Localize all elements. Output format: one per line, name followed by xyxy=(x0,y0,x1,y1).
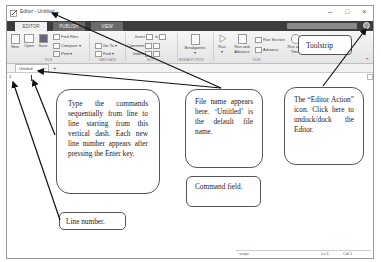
function-icon xyxy=(159,34,166,40)
run-label: Run xyxy=(218,44,225,49)
column-indicator: Col 1 xyxy=(343,251,352,256)
tab-publish[interactable]: PUBLISH xyxy=(53,22,85,31)
comment-icon xyxy=(145,43,152,49)
find-files-icon xyxy=(53,34,60,40)
file-type-indicator: script xyxy=(239,251,249,256)
go-to-button[interactable]: Go To ▾ xyxy=(95,43,117,49)
breakpoints-icon xyxy=(191,34,200,45)
run-and-advance-label: Run and Advance xyxy=(234,44,250,54)
indent-icon xyxy=(145,51,152,57)
callout-line-number-text: Line number. xyxy=(66,216,119,227)
run-section-button[interactable]: Run Section xyxy=(255,37,285,43)
callout-command-field: Command field. xyxy=(186,176,261,207)
close-button[interactable]: × xyxy=(362,7,367,16)
run-and-advance-button[interactable]: Run and Advance xyxy=(231,34,253,54)
minimize-button[interactable]: – xyxy=(328,7,332,16)
advance-button[interactable]: Advance xyxy=(255,47,279,53)
save-icon xyxy=(39,34,48,43)
ribbon-tab-bar: EDITOR PUBLISH VIEW xyxy=(7,21,373,31)
callout-editor-action-text: The “Editor Action” icon. Click here to … xyxy=(294,95,354,135)
line-number: 1 xyxy=(9,74,11,79)
breakpoints-group-label: BREAKPOINTS xyxy=(179,58,204,62)
open-label: Open xyxy=(24,43,34,48)
callout-file-name: File name appears here. ‘Untitled’ is th… xyxy=(185,89,263,168)
run-and-advance-icon xyxy=(238,34,247,44)
save-label: Save xyxy=(38,43,47,48)
new-file-icon xyxy=(11,34,20,44)
separator xyxy=(213,33,214,61)
add-tab-button[interactable]: + xyxy=(53,64,57,72)
callout-editor-action: The “Editor Action” icon. Click here to … xyxy=(284,87,364,165)
line-indicator: Ln 1 xyxy=(321,251,329,256)
file-group-label: FILE xyxy=(45,58,52,62)
status-bar: script Ln 1 Col 1 xyxy=(7,250,373,258)
compare-icon xyxy=(53,43,60,49)
outdent-icon xyxy=(153,51,160,57)
separator xyxy=(89,33,90,61)
go-to-icon xyxy=(95,43,102,49)
new-button[interactable]: New xyxy=(9,34,21,49)
run-icon xyxy=(218,34,227,43)
comment-button[interactable]: Comment xyxy=(127,43,161,49)
tab-editor[interactable]: EDITOR xyxy=(15,22,47,31)
collapse-toolstrip-icon[interactable]: ⌅ xyxy=(365,55,369,61)
insert-button[interactable]: Insert fx xyxy=(135,34,167,40)
insert-icon xyxy=(146,34,153,40)
callout-line-number: Line number. xyxy=(59,212,126,230)
callout-command-field-text: Command field. xyxy=(195,182,252,192)
editor-action-icon[interactable] xyxy=(363,22,370,29)
quick-access-toolbar[interactable] xyxy=(287,23,357,29)
callout-toolstrip-text: Toolstrip xyxy=(306,40,344,51)
compare-button[interactable]: Compare ▾ xyxy=(53,43,81,49)
separator xyxy=(125,33,126,61)
navigate-group-label: NAVIGATE xyxy=(99,58,116,62)
save-button[interactable]: Save xyxy=(37,34,49,48)
separator xyxy=(177,33,178,61)
callout-type-commands-text: Type the commands sequentially from line… xyxy=(68,99,148,159)
print-icon xyxy=(53,51,60,57)
folder-icon xyxy=(24,34,34,43)
tab-view[interactable]: VIEW xyxy=(91,22,123,31)
run-group-label: RUN xyxy=(253,58,261,62)
find-icon xyxy=(95,51,102,57)
edit-group-label: EDIT xyxy=(147,58,155,62)
callout-type-commands: Type the commands sequentially from line… xyxy=(56,89,160,194)
window-title: Editor - Untitled xyxy=(20,8,54,14)
find-button[interactable]: Find ▾ xyxy=(95,51,114,57)
callout-file-name-text: File name appears here. ‘Untitled’ is th… xyxy=(195,97,253,137)
open-button[interactable]: Open xyxy=(23,34,35,48)
run-button[interactable]: Run▾ xyxy=(215,34,229,54)
breakpoints-button[interactable]: Breakpoints▾ xyxy=(179,34,211,55)
advance-icon xyxy=(255,47,262,53)
maximize-button[interactable]: □ xyxy=(345,8,349,15)
print-button[interactable]: Print ▾ xyxy=(53,51,72,57)
run-section-icon xyxy=(255,37,262,43)
breakpoints-label: Breakpoints xyxy=(184,45,205,50)
editor-app-icon xyxy=(10,9,18,17)
indent-button[interactable]: Indent xyxy=(133,51,161,57)
title-bar: Editor - Untitled – □ × xyxy=(7,6,373,20)
document-tab-label: Untitled xyxy=(19,66,33,71)
callout-toolstrip: Toolstrip xyxy=(298,35,352,55)
new-label: New xyxy=(11,44,19,49)
uncomment-icon xyxy=(153,43,160,49)
document-tab-untitled[interactable]: Untitled × xyxy=(15,64,49,72)
find-files-button[interactable]: Find Files xyxy=(53,34,78,40)
